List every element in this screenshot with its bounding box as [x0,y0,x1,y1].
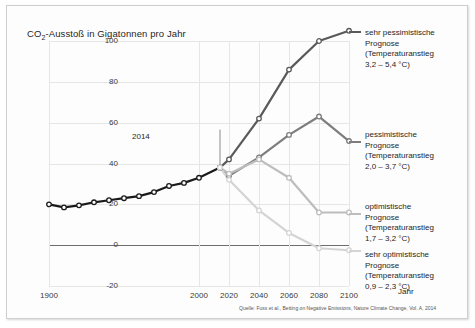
data-point-marker [47,202,52,207]
legend-connector-line [349,141,361,143]
series-line [220,168,349,251]
series-line [49,168,220,208]
data-point-marker [257,157,262,162]
x-axis-tick-label: 2100 [329,292,369,300]
y-axis-tick-label: 80 [88,78,118,86]
legend-connector-line [349,31,361,33]
legend-entry-label: 3,2 – 5,4 °C) [365,60,473,71]
data-point-marker [227,171,232,176]
legend-entry-label: 1,7 – 3,2 °C) [365,234,473,245]
data-point-marker [287,67,292,72]
legend-entry: pessimistischePrognose(Temperaturanstieg… [365,130,473,172]
legend-entry-label: sehr optimistische [365,250,473,261]
y-axis-tick-label: 60 [88,119,118,127]
data-point-marker [167,184,172,189]
legend-entry-label: 0,9 – 2,3 °C) [365,282,473,293]
data-point-marker [152,190,157,195]
legend-entry-label: Prognose [365,213,473,224]
data-point-marker [77,203,82,208]
source-credit: Quelle: Fuss et al., Betting on Negative… [239,305,436,311]
data-point-marker [227,157,232,162]
y-axis-tick-label: 0 [88,241,118,249]
y-axis-tick-label: 40 [88,160,118,168]
series-line [220,159,349,212]
data-point-marker [122,196,127,201]
data-point-marker [227,178,232,183]
data-point-marker [182,181,187,186]
data-point-marker [62,205,67,210]
annotation-2014: 2014 [132,132,150,141]
x-axis-tick-label: 1900 [29,292,69,300]
legend-entry-label: (Temperaturanstieg [365,223,473,234]
data-point-marker [317,210,322,215]
legend-entry: sehr optimistischePrognose(Temperaturans… [365,250,473,292]
chart-figure: CO2-Ausstoß in Gigatonnen pro Jahr 2014 … [6,5,468,319]
data-point-marker [197,175,202,180]
legend-entry: sehr pessimistischePrognose(Temperaturan… [365,28,473,70]
y-axis-tick-label: 20 [88,200,118,208]
legend-entry-label: (Temperaturanstieg [365,49,473,60]
data-point-marker [287,133,292,138]
legend-entry-label: optimistische [365,202,473,213]
data-point-marker [287,231,292,236]
legend-entry-label: Prognose [365,39,473,50]
data-point-marker [257,208,262,213]
legend-entry-label: pessimistische [365,130,473,141]
data-point-marker [257,116,262,121]
chart-title-main: CO [27,28,41,39]
legend-entry-label: Prognose [365,141,473,152]
data-point-marker [317,114,322,119]
legend-connector-line [349,250,361,252]
legend-entry-label: (Temperaturanstieg [365,271,473,282]
legend-connector-line [349,213,361,215]
legend-entry: optimistischePrognose(Temperaturanstieg1… [365,202,473,244]
data-point-marker [287,175,292,180]
data-point-marker [137,194,142,199]
data-point-marker [317,246,322,251]
data-point-marker [218,165,223,170]
legend-entry-label: 2,0 – 3,7 °C) [365,162,473,173]
legend-entry-label: sehr pessimistische [365,28,473,39]
data-point-marker [317,39,322,44]
y-axis-tick-label: 100 [88,37,118,45]
legend-entry-label: (Temperaturanstieg [365,151,473,162]
y-axis-tick-label: -20 [88,282,118,290]
series-line [220,31,349,168]
legend-entry-label: Prognose [365,261,473,272]
